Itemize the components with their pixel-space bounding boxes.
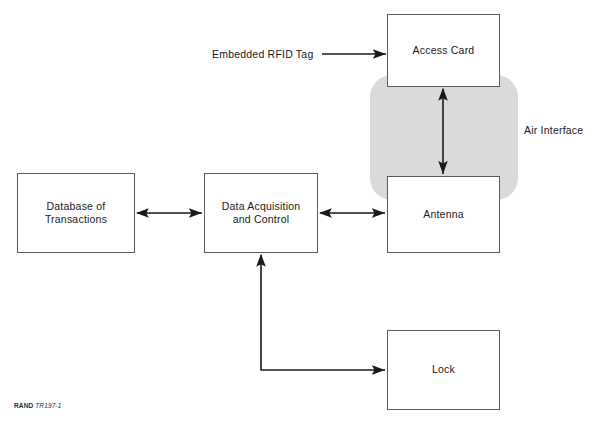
figure-canvas: Access Card Antenna Database of Transact…	[0, 0, 602, 435]
node-lock[interactable]: Lock	[387, 330, 500, 410]
node-database-of-transactions[interactable]: Database of Transactions	[17, 173, 135, 253]
node-antenna[interactable]: Antenna	[387, 176, 500, 253]
node-data-acquisition-and-control[interactable]: Data Acquisition and Control	[204, 173, 318, 253]
node-label: Antenna	[423, 208, 464, 222]
credit-organization: RAND	[14, 402, 33, 409]
credit-line: RAND TR197-1	[14, 402, 61, 409]
node-label: Data Acquisition and Control	[222, 200, 301, 227]
connector-lock-to-data-acquisition	[261, 255, 385, 370]
node-label: Access Card	[413, 44, 475, 58]
node-access-card[interactable]: Access Card	[387, 14, 500, 87]
label-embedded-rfid-tag: Embedded RFID Tag	[212, 48, 313, 61]
node-label: Database of Transactions	[45, 200, 107, 227]
credit-identifier: TR197-1	[35, 402, 61, 409]
label-air-interface: Air Interface	[524, 124, 583, 137]
node-label: Lock	[432, 363, 455, 377]
